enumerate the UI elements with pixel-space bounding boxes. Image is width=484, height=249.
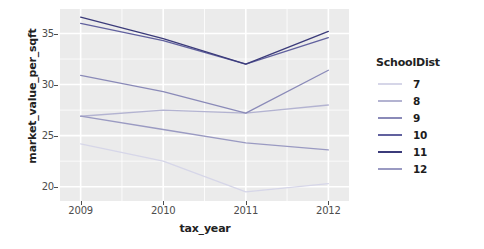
- legend-items: 789101112: [376, 75, 480, 177]
- y-tick-mark: [54, 187, 58, 188]
- x-tick-mark: [163, 201, 164, 205]
- plot-panel: [60, 9, 349, 201]
- legend-item-12[interactable]: 12: [376, 160, 480, 177]
- legend-item-11[interactable]: 11: [376, 143, 480, 160]
- legend-label: 10: [413, 129, 427, 141]
- legend-title: SchoolDist: [376, 56, 480, 69]
- x-tick-mark: [81, 201, 82, 205]
- y-tick-mark: [54, 85, 58, 86]
- legend-item-9[interactable]: 9: [376, 109, 480, 126]
- x-tick-label: 2010: [140, 205, 186, 216]
- legend-item-10[interactable]: 10: [376, 126, 480, 143]
- legend-key-swatch-12: [376, 161, 404, 176]
- legend-key-swatch-9: [376, 110, 404, 125]
- legend-label: 8: [413, 95, 420, 107]
- legend-item-8[interactable]: 8: [376, 92, 480, 109]
- legend-label: 12: [413, 163, 427, 175]
- x-tick-mark: [328, 201, 329, 205]
- legend-label: 11: [413, 146, 427, 158]
- x-tick-label: 2011: [223, 205, 269, 216]
- legend-key-swatch-8: [376, 93, 404, 108]
- x-tick-mark: [246, 201, 247, 205]
- chart-container: market_value_per_sqft tax_year 20253035 …: [0, 0, 484, 249]
- legend-key-swatch-10: [376, 127, 404, 142]
- x-tick-label: 2012: [305, 205, 351, 216]
- x-tick-label: 2009: [58, 205, 104, 216]
- legend-label: 7: [413, 78, 420, 90]
- legend-key-swatch-11: [376, 144, 404, 159]
- legend-item-7[interactable]: 7: [376, 75, 480, 92]
- y-tick-mark: [54, 34, 58, 35]
- legend-key-swatch-7: [376, 76, 404, 91]
- y-tick-mark: [54, 136, 58, 137]
- legend-label: 9: [413, 112, 420, 124]
- plot-lines: [60, 9, 349, 201]
- legend: SchoolDist 789101112: [376, 56, 480, 177]
